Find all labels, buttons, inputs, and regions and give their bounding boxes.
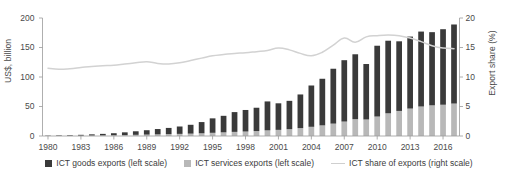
- bar-services: [265, 130, 271, 136]
- bar-goods: [265, 101, 271, 130]
- chart-legend: ICT goods exports (left scale)ICT servic…: [0, 158, 518, 168]
- bar-goods: [89, 134, 95, 135]
- bar-services: [319, 125, 325, 136]
- bar-services: [451, 104, 457, 136]
- bar-services: [341, 122, 347, 136]
- legend-label: ICT goods exports (left scale): [56, 158, 167, 168]
- bar-goods: [243, 110, 249, 132]
- bar-services: [221, 132, 227, 136]
- bar-services: [440, 105, 446, 136]
- legend-item: ICT services exports (left scale): [184, 158, 314, 168]
- bar-goods: [177, 127, 183, 134]
- bar-services: [276, 130, 282, 136]
- bar-services: [418, 107, 424, 137]
- bar-goods: [352, 54, 358, 119]
- bar-goods: [100, 134, 106, 136]
- x-axis-tick-label: 1995: [196, 142, 230, 152]
- x-axis-tick-label: 2010: [360, 142, 394, 152]
- legend-label: ICT services exports (left scale): [195, 158, 314, 168]
- bar-goods: [385, 41, 391, 114]
- bar-goods: [188, 125, 194, 134]
- y-axis-left-tick-label: 0: [11, 131, 35, 141]
- line-series-share: [48, 35, 454, 69]
- bar-goods: [363, 64, 369, 119]
- legend-swatch-icon: [45, 160, 52, 167]
- legend-item: ICT goods exports (left scale): [45, 158, 167, 168]
- bar-goods: [144, 130, 150, 134]
- bar-services: [407, 109, 413, 136]
- x-axis-tick-label: 1986: [97, 142, 131, 152]
- bar-services: [298, 128, 304, 136]
- bar-goods: [210, 118, 216, 132]
- bar-goods: [330, 69, 336, 124]
- bar-goods: [298, 94, 304, 128]
- bar-goods: [133, 131, 139, 135]
- y-axis-right-tick-label: 0: [466, 131, 490, 141]
- bar-goods: [429, 32, 435, 105]
- bar-goods: [221, 116, 227, 133]
- bar-services: [210, 133, 216, 136]
- bar-goods: [309, 86, 315, 127]
- x-axis-tick-label: 1992: [163, 142, 197, 152]
- bar-services: [309, 127, 315, 136]
- bar-goods: [122, 132, 128, 135]
- y-axis-right-tick-label: 15: [466, 42, 490, 52]
- bar-services: [254, 131, 260, 136]
- x-axis-tick-label: 1980: [31, 142, 65, 152]
- legend-item: ICT share of exports (right scale): [331, 158, 473, 168]
- x-axis-tick-label: 2004: [294, 142, 328, 152]
- x-axis-tick-label: 1998: [229, 142, 263, 152]
- bar-services: [352, 119, 358, 136]
- bar-services: [374, 117, 380, 136]
- bar-series-services: [45, 104, 457, 136]
- bar-goods: [155, 129, 161, 134]
- bar-services: [232, 132, 238, 136]
- legend-label: ICT share of exports (right scale): [349, 158, 473, 168]
- x-axis-tick-label: 2013: [393, 142, 427, 152]
- x-axis-tick-label: 2016: [426, 142, 460, 152]
- bar-series-goods: [45, 24, 457, 135]
- x-axis-tick-label: 2007: [327, 142, 361, 152]
- bar-goods: [111, 133, 117, 135]
- bar-services: [243, 132, 249, 136]
- y-axis-left-tick-label: 200: [11, 13, 35, 23]
- bar-services: [363, 119, 369, 136]
- x-axis-tick-label: 2001: [261, 142, 295, 152]
- y-axis-right-tick-label: 10: [466, 72, 490, 82]
- bar-goods: [319, 79, 325, 126]
- bar-goods: [199, 122, 205, 133]
- bar-services: [429, 105, 435, 136]
- bar-goods: [232, 112, 238, 132]
- bar-goods: [254, 108, 260, 131]
- y-axis-right-tick-label: 20: [466, 13, 490, 23]
- chart-container: US$, billion Export share (%) 0501001502…: [0, 0, 518, 176]
- y-axis-left-tick-label: 150: [11, 42, 35, 52]
- bar-services: [396, 111, 402, 136]
- bar-goods: [166, 128, 172, 134]
- bar-goods: [374, 46, 380, 117]
- bar-goods: [341, 60, 347, 121]
- x-axis-tick-label: 1983: [64, 142, 98, 152]
- legend-line-icon: [331, 163, 345, 164]
- bar-goods: [78, 135, 84, 136]
- bar-services: [385, 113, 391, 136]
- bar-goods: [287, 101, 293, 129]
- bar-services: [330, 124, 336, 136]
- bar-services: [287, 129, 293, 136]
- bar-goods: [276, 103, 282, 130]
- y-axis-right-tick-label: 5: [466, 101, 490, 111]
- bar-goods: [396, 41, 402, 111]
- bar-goods: [451, 24, 457, 103]
- y-axis-left-tick-label: 100: [11, 72, 35, 82]
- bar-services: [199, 133, 205, 136]
- bar-goods: [407, 37, 413, 109]
- legend-swatch-icon: [184, 160, 191, 167]
- y-axis-left-tick-label: 50: [11, 101, 35, 111]
- x-axis-tick-label: 1989: [130, 142, 164, 152]
- bar-goods: [440, 29, 446, 105]
